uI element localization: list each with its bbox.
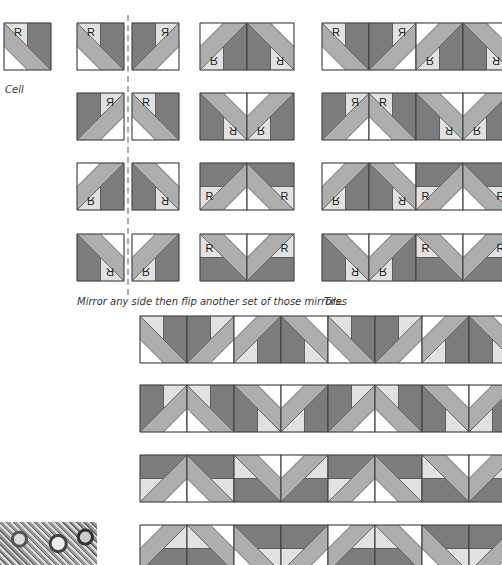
tile-strips — [0, 0, 502, 565]
